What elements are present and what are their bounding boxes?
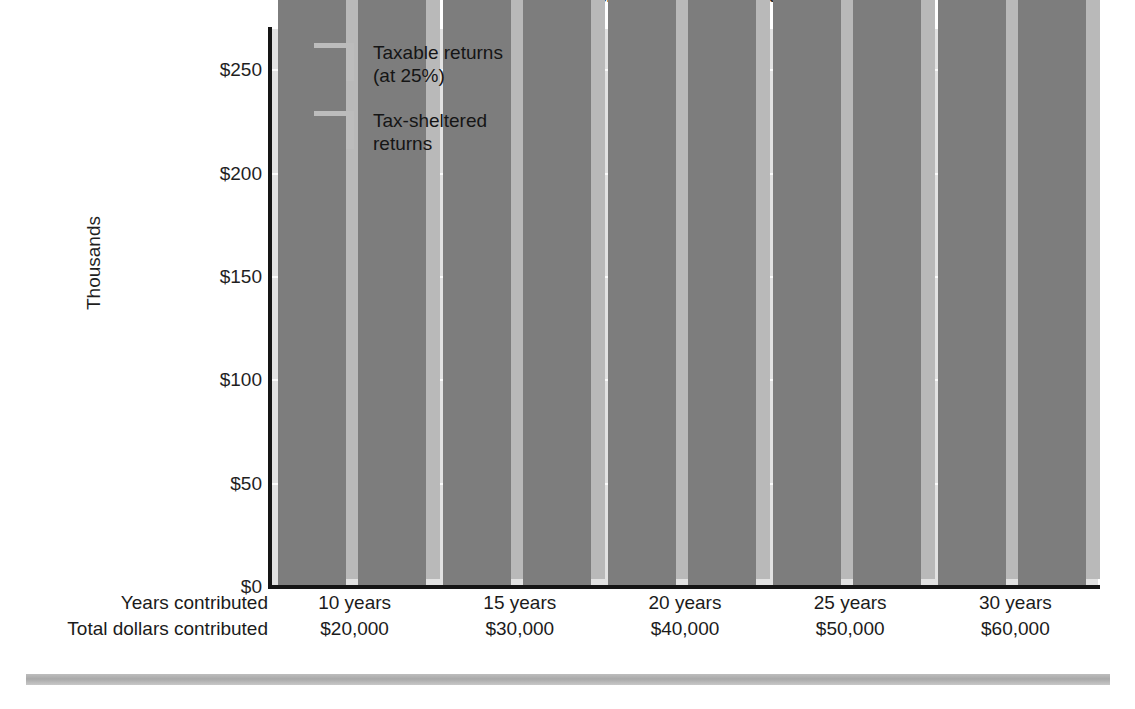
y-tick-label: $200 (198, 164, 262, 183)
bar-front-face (608, 0, 676, 587)
x-category-sublabel: $20,000 (272, 618, 437, 640)
x-category-sublabel: $40,000 (602, 618, 767, 640)
legend-swatch-icon (314, 111, 354, 154)
bar (853, 0, 921, 587)
x-category-sublabel: $50,000 (768, 618, 933, 640)
bar (1018, 0, 1086, 587)
bar (608, 0, 676, 587)
bar-front-face (1018, 0, 1086, 587)
legend-label: Tax-sheltered returns (373, 109, 487, 155)
y-axis-title: Thousands (83, 163, 105, 363)
legend-item[interactable]: Taxable returns (at 25%) (314, 41, 614, 87)
bar (688, 0, 756, 587)
x-row-title-dollars: Total dollars contributed (67, 618, 268, 640)
bar-side-face (756, 0, 770, 579)
bar-front-face (853, 0, 921, 587)
x-category-label: 20 years (602, 592, 767, 614)
bottom-rule (26, 674, 1110, 685)
x-axis-line (268, 585, 1100, 589)
x-category-label: 10 years (272, 592, 437, 614)
chart-legend: Taxable returns (at 25%)Tax-sheltered re… (314, 41, 614, 177)
y-tick-label: $100 (198, 370, 262, 389)
bar-front-face (688, 0, 756, 587)
y-tick-label: $250 (198, 60, 262, 79)
bar-side-face (1086, 0, 1100, 579)
x-axis-labels: Years contributed Total dollars contribu… (0, 592, 1135, 646)
y-axis-line (268, 27, 272, 589)
x-category-sublabel: $60,000 (933, 618, 1098, 640)
legend-item[interactable]: Tax-sheltered returns (314, 109, 614, 155)
x-category-sublabel: $30,000 (437, 618, 602, 640)
bar (773, 0, 841, 587)
x-axis-row-titles: Years contributed Total dollars contribu… (0, 592, 268, 646)
plot-area: $27,943$31,920$49,345$58,648$77,985$98,8… (272, 29, 1098, 587)
x-category-label: 25 years (768, 592, 933, 614)
bar (938, 0, 1006, 587)
bar-front-face (938, 0, 1006, 587)
bar-front-face (773, 0, 841, 587)
chart-figure: Tax-sheltered vs. taxable returns $0$50$… (0, 0, 1135, 709)
legend-swatch-icon (314, 43, 354, 86)
x-row-title-years: Years contributed (121, 592, 268, 614)
legend-label: Taxable returns (at 25%) (373, 41, 503, 87)
y-tick-label: $50 (198, 474, 262, 493)
x-category-label: 15 years (437, 592, 602, 614)
x-category-label: 30 years (933, 592, 1098, 614)
bar-side-face (921, 0, 935, 579)
y-tick-label: $150 (198, 267, 262, 286)
